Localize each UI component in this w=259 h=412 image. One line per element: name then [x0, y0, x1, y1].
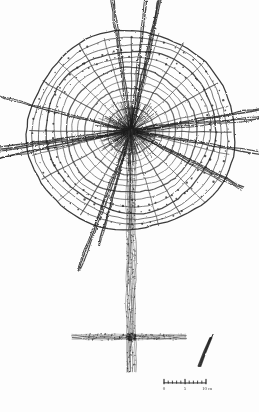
site-plan-figure: Fig. [0, 0, 259, 412]
plan-drawing [0, 0, 259, 412]
